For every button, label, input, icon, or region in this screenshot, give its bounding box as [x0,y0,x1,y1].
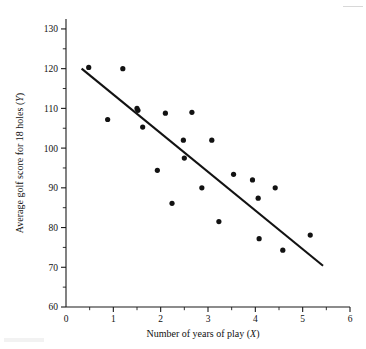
y-tick-label-90: 90 [49,183,59,193]
y-tick-label-80: 80 [49,223,59,233]
y-tick-label-110: 110 [44,104,58,114]
y-tick-label-70: 70 [49,263,59,273]
y-axis-title: Average golf score for 18 holes (Y) [14,93,26,233]
y-tick-label-60: 60 [49,302,59,312]
data-point [120,66,125,71]
x-tick-label-5: 5 [300,314,305,324]
regression-line [82,69,323,266]
x-tick-label-0: 0 [64,314,69,324]
x-tick-label-4: 4 [253,314,258,324]
data-point [86,65,91,70]
scatter-plot: 60708090100110120130 0123456 Number of y… [0,0,366,349]
y-axis-tick-labels: 60708090100110120130 [44,24,59,312]
axes-group [66,19,350,307]
x-tick-label-6: 6 [348,314,353,324]
x-tick-label-1: 1 [111,314,116,324]
data-point [155,168,160,173]
data-point [140,124,145,129]
data-point [182,155,187,160]
y-tick-label-120: 120 [44,64,59,74]
data-point [273,185,278,190]
data-point [181,138,186,143]
x-axis-tick-labels: 0123456 [64,314,353,324]
data-point [189,110,194,115]
data-point [169,201,174,206]
x-tick-label-3: 3 [206,314,211,324]
page-edge-artifact [343,6,363,7]
data-point [209,138,214,143]
data-point [280,248,285,253]
data-point [163,111,168,116]
page-corner-artifact [4,338,44,342]
data-point [231,172,236,177]
data-point [308,233,313,238]
y-tick-label-100: 100 [44,144,59,154]
data-point [199,185,204,190]
data-points-group [86,65,313,253]
data-point [216,219,221,224]
x-tick-label-2: 2 [158,314,163,324]
data-point [257,236,262,241]
data-point [256,196,261,201]
x-axis-title: Number of years of play (X) [146,328,259,340]
figure-container: 60708090100110120130 0123456 Number of y… [0,0,366,349]
data-point [250,177,255,182]
data-point [105,117,110,122]
y-tick-label-130: 130 [44,24,59,34]
